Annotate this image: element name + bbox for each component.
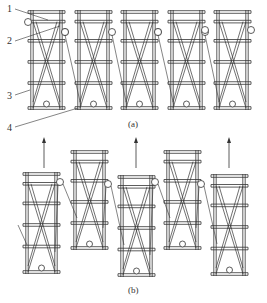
- up-arrow-icon: [42, 137, 46, 143]
- pulley-circle: [152, 179, 159, 186]
- callout-label-2: 2: [7, 36, 12, 46]
- pulley-circle: [62, 29, 69, 36]
- bottom-pulley-circle: [227, 267, 233, 273]
- pulley-circle: [248, 27, 255, 34]
- leader-line-3: [15, 90, 30, 95]
- bottom-pulley-circle: [137, 101, 143, 107]
- scaffold-diagram: [0, 0, 267, 303]
- pulley-circle: [25, 19, 32, 26]
- up-arrow-icon: [227, 137, 231, 143]
- bottom-pulley-circle: [134, 268, 140, 274]
- pulley-circle: [202, 27, 209, 34]
- bottom-pulley-circle: [180, 241, 186, 247]
- pulley-circle: [57, 179, 64, 186]
- callout-label-1: 1: [7, 4, 12, 14]
- bottom-pulley-circle: [184, 101, 190, 107]
- pulley-circle: [198, 181, 205, 188]
- callout-label-4: 4: [7, 123, 12, 133]
- caption-panel-a: (a): [128, 120, 138, 129]
- leader-line-4: [15, 108, 78, 127]
- hoist-rope: [112, 35, 127, 106]
- up-arrow-icon: [134, 137, 138, 143]
- hoist-rope: [205, 35, 220, 106]
- pulley-circle: [105, 181, 112, 188]
- hoist-rope: [204, 186, 217, 244]
- bottom-pulley-circle: [44, 101, 50, 107]
- hoist-rope: [111, 186, 124, 245]
- hoist-rope: [65, 35, 81, 106]
- bottom-pulley-circle: [230, 101, 236, 107]
- pulley-circle: [155, 29, 162, 36]
- callout-label-3: 3: [7, 91, 12, 101]
- bottom-pulley-circle: [39, 265, 45, 271]
- hoist-rope: [158, 35, 174, 106]
- caption-panel-b: (b): [128, 286, 139, 295]
- bottom-pulley-circle: [87, 241, 93, 247]
- pulley-circle: [109, 29, 116, 36]
- bottom-pulley-circle: [91, 101, 97, 107]
